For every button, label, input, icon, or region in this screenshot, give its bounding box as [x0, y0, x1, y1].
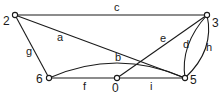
- node-labels-group: 23605: [3, 14, 219, 95]
- node-6: [46, 75, 51, 80]
- node-0: [114, 75, 119, 80]
- node-label-3: 3: [212, 16, 219, 30]
- edge-label-f: f: [83, 80, 87, 92]
- node-3: [204, 12, 209, 17]
- edge-label-e: e: [160, 32, 166, 44]
- node-label-6: 6: [36, 72, 43, 86]
- node-label-5: 5: [190, 73, 197, 87]
- edges-group: [15, 15, 209, 78]
- graph-diagram: abcdefghi 23605: [0, 0, 224, 95]
- node-label-0: 0: [112, 81, 119, 95]
- edge-label-g: g: [26, 45, 32, 57]
- edge-label-d: d: [183, 38, 189, 50]
- nodes-group: [12, 12, 209, 80]
- node-5: [182, 75, 187, 80]
- edge-label-c: c: [114, 1, 120, 13]
- edge-label-a: a: [57, 31, 64, 43]
- edge-label-b: b: [115, 51, 121, 63]
- node-2: [12, 12, 17, 17]
- edge-label-h: h: [206, 41, 212, 53]
- node-label-2: 2: [3, 14, 10, 28]
- edge-label-i: i: [150, 80, 152, 92]
